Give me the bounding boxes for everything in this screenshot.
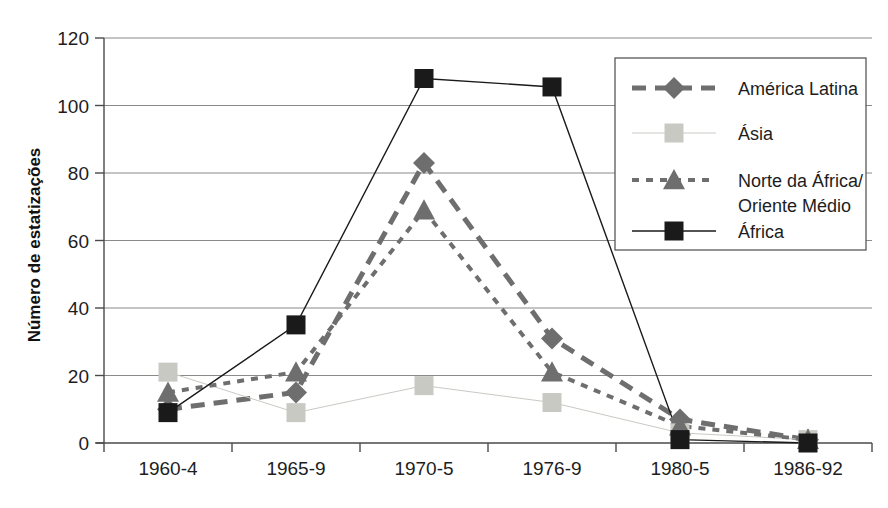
data-point-square — [287, 315, 306, 334]
data-point-square — [671, 430, 690, 449]
chart-container: 020406080100120 1960-41965-91970-51976-9… — [0, 0, 888, 508]
data-point-diamond — [285, 381, 307, 403]
data-point-square — [543, 77, 562, 96]
y-axis-tick-label: 60 — [68, 231, 89, 252]
x-axis-tick-label: 1986-92 — [773, 458, 843, 479]
x-axis-tick-label: 1960-4 — [138, 458, 198, 479]
data-point-square — [665, 222, 684, 241]
data-point-square — [543, 393, 562, 412]
y-axis-tick-label: 20 — [68, 366, 89, 387]
data-point-square — [415, 376, 434, 395]
y-axis-tick-labels: 020406080100120 — [57, 28, 89, 454]
y-axis-tick-label: 100 — [57, 96, 89, 117]
data-point-square — [415, 69, 434, 88]
data-point-square — [799, 434, 818, 453]
x-axis-ticks — [104, 443, 872, 452]
line-chart: 020406080100120 1960-41965-91970-51976-9… — [0, 0, 888, 508]
y-axis-tick-label: 120 — [57, 28, 89, 49]
data-point-triangle — [541, 361, 563, 381]
data-point-square — [665, 124, 684, 143]
legend-label: Ásia — [738, 124, 774, 144]
y-axis-title-text: Número de estatizações — [25, 148, 44, 343]
y-axis-tick-label: 40 — [68, 298, 89, 319]
x-axis-tick-label: 1970-5 — [394, 458, 453, 479]
data-point-square — [159, 403, 178, 422]
legend-label: América Latina — [738, 79, 859, 99]
x-axis-tick-labels: 1960-41965-91970-51976-91980-51986-92 — [138, 458, 842, 479]
data-point-square — [287, 403, 306, 422]
series-line — [168, 372, 808, 440]
y-axis-tick-label: 0 — [78, 433, 89, 454]
x-axis-tick-label: 1980-5 — [650, 458, 709, 479]
y-axis-ticks — [95, 38, 104, 443]
data-point-triangle — [157, 381, 179, 401]
y-axis-title: Número de estatizações — [25, 148, 44, 343]
legend-label: Norte da África/ — [738, 171, 863, 191]
chart-legend: América LatinaÁsiaNorte da África/Orient… — [615, 58, 866, 250]
legend-label: África — [738, 222, 785, 242]
legend-label-line2: Oriente Médio — [738, 196, 851, 216]
data-point-triangle — [413, 199, 435, 219]
x-axis-tick-label: 1965-9 — [266, 458, 325, 479]
data-point-square — [159, 363, 178, 382]
y-axis-tick-label: 80 — [68, 163, 89, 184]
x-axis-tick-label: 1976-9 — [522, 458, 581, 479]
